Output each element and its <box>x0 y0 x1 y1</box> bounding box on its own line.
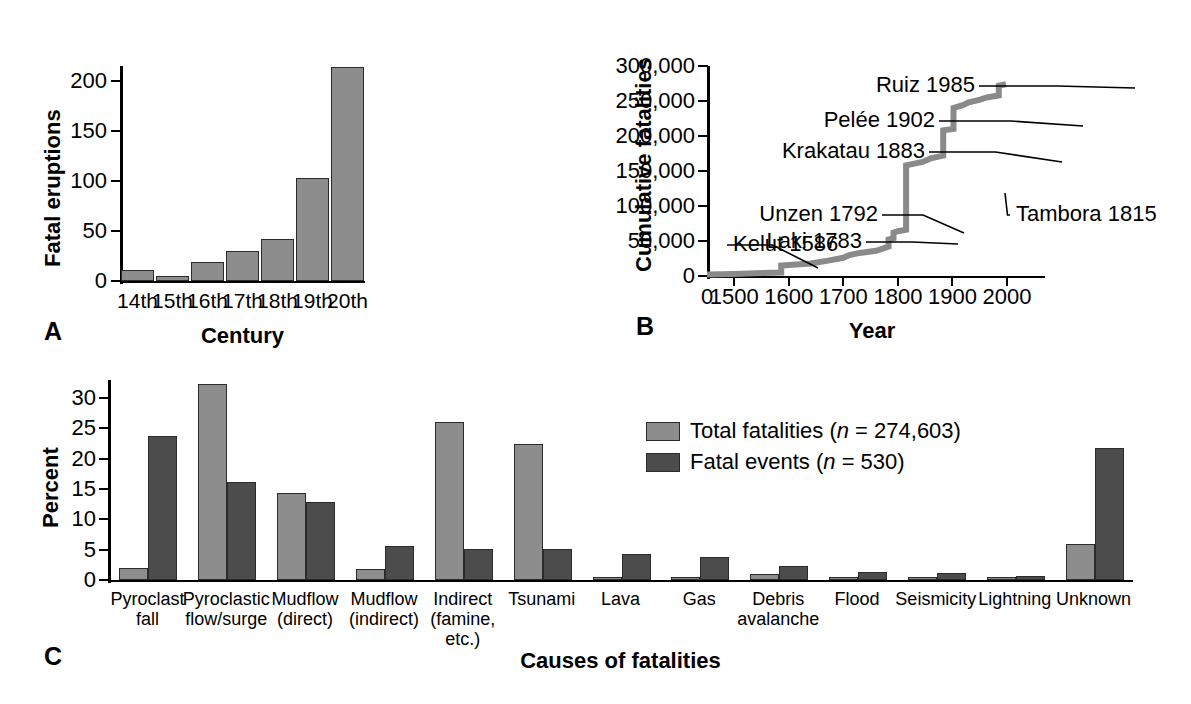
panelA-x-tick-label: 20th <box>324 289 371 313</box>
panelB-y-axis-title: Cumulative fatalities <box>631 58 657 272</box>
panelC-y-tick-label: 5 <box>46 537 96 563</box>
panelB-y-tick <box>698 135 708 137</box>
panelB-annotation: Ruiz 1985 <box>0 72 975 98</box>
panelC-x-tick-label: Tsunami <box>498 589 585 609</box>
panelB-annotation-leader <box>979 86 1135 88</box>
panelC-legend-item: Total fatalities (n = 274,603) <box>646 418 961 444</box>
panelC-bar <box>987 577 1016 580</box>
panelC-bar <box>277 493 306 580</box>
panelC-y-tick <box>99 458 109 460</box>
panelC-y-tick-label: 25 <box>46 415 96 441</box>
panelC-bar <box>858 572 887 580</box>
panelC-legend-label: Total fatalities (n = 274,603) <box>690 418 961 444</box>
panelC-bar <box>622 554 651 580</box>
panelC-bar <box>514 444 543 580</box>
panelB-y-tick <box>698 170 708 172</box>
panelB-annotation: Krakatau 1883 <box>0 138 925 164</box>
panelC-bar <box>908 577 937 580</box>
panelB-annotation-leader <box>929 152 1062 162</box>
panelC-y-tick <box>99 397 109 399</box>
panelB-annotation: Kelut 1586 <box>733 231 838 257</box>
panelC-bar <box>227 482 256 580</box>
panelA-bar <box>226 251 259 281</box>
panelC-y-tick <box>99 518 109 520</box>
panelC-bar <box>829 577 858 580</box>
panelC-x-axis <box>108 580 1133 582</box>
panelB-annotation-leader <box>1005 193 1010 215</box>
panelC-bar <box>750 574 779 580</box>
panelC-legend-label: Fatal events (n = 530) <box>690 449 905 475</box>
panelB-letter: B <box>636 312 654 341</box>
panelC-y-tick <box>99 488 109 490</box>
panelC-bar <box>937 573 966 580</box>
panelB-x-axis <box>707 276 1045 278</box>
panelC-bar <box>356 569 385 580</box>
panelC-x-tick-label: Lightning <box>971 589 1058 609</box>
panelC-legend-swatch <box>646 453 680 472</box>
panelB-annotation: Tambora 1815 <box>1016 201 1157 227</box>
panelA-y-tick <box>111 280 121 282</box>
panelC-x-axis-title: Causes of fatalities <box>108 648 1133 674</box>
panelC-x-tick-label: Lava <box>577 589 664 609</box>
panelC-bar <box>779 566 808 580</box>
figure-root: 05010015020014th15th16th17th18th19th20th… <box>0 0 1191 704</box>
panelB-y-tick <box>698 100 708 102</box>
panelC-y-tick <box>99 427 109 429</box>
panelC-bar <box>464 549 493 580</box>
panelC-x-tick-label: Pyroclast fall <box>104 589 191 629</box>
panelB-annotation: Unzen 1792 <box>0 201 878 227</box>
panelC-bar <box>119 568 148 580</box>
panelA-bar <box>191 262 224 281</box>
panelC-legend-swatch <box>646 422 680 441</box>
panelC-legend-item: Fatal events (n = 530) <box>646 449 905 475</box>
panelC-bar <box>1066 544 1095 580</box>
panelC-bar <box>700 557 729 580</box>
panelB-annotation-leader <box>882 215 964 233</box>
panelA-letter: A <box>44 317 62 346</box>
panelB-y-tick <box>698 65 708 67</box>
panelC-x-tick-label: Gas <box>656 589 743 609</box>
panelC-x-tick-label: Debris avalanche <box>735 589 822 629</box>
panelB-annotation-leader <box>939 121 1083 126</box>
panelB-y-tick <box>698 275 708 277</box>
panelC-bar <box>306 502 335 580</box>
panelC-y-axis <box>108 380 111 583</box>
panelC-x-tick-label: Indirect (famine, etc.) <box>419 589 506 649</box>
panelB-x-tick-label: 2000 <box>975 284 1039 310</box>
panelC-bar <box>435 422 464 580</box>
panelC-letter: C <box>44 642 62 671</box>
panelC-y-tick <box>99 549 109 551</box>
panelC-x-tick-label: Mudflow (direct) <box>262 589 349 629</box>
panelC-bar <box>198 384 227 580</box>
panelB-annotation-leader <box>866 242 958 244</box>
panelA-y-tick-label: 0 <box>45 268 107 294</box>
panelC-y-tick-label: 30 <box>46 385 96 411</box>
panelB-annotation: Pelée 1902 <box>0 107 935 133</box>
panelC-x-tick-label: Pyroclastic flow/surge <box>183 589 270 629</box>
panelC-x-tick-label: Flood <box>814 589 901 609</box>
panelC-bar <box>593 577 622 580</box>
panelA-bar <box>121 270 154 281</box>
panelC-x-tick-label: Seismicity <box>892 589 979 609</box>
panelC-x-tick-label: Unknown <box>1050 589 1137 609</box>
panelA-y-tick <box>111 180 121 182</box>
panelC-bar <box>1016 576 1045 580</box>
panelA-x-axis-title: Century <box>120 323 365 349</box>
panelC-bar <box>148 436 177 580</box>
panelC-y-tick-label: 0 <box>46 567 96 593</box>
panelC-bar <box>1095 448 1124 580</box>
panelC-bar <box>671 577 700 580</box>
panelC-bar <box>385 546 414 580</box>
panelC-bar <box>543 549 572 580</box>
panelA-bar <box>156 276 189 281</box>
panelB-x-axis-title: Year <box>707 318 1037 344</box>
panelA-x-axis <box>120 281 365 283</box>
panelC-y-tick <box>99 579 109 581</box>
panelC-y-axis-title: Percent <box>38 447 64 528</box>
panelC-x-tick-label: Mudflow (indirect) <box>341 589 428 629</box>
